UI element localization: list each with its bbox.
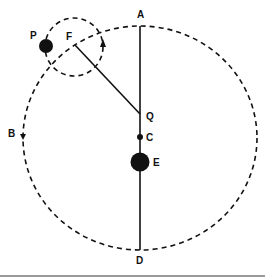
orbit-diagram: A B C D E F P Q	[0, 0, 265, 278]
label-E: E	[153, 157, 160, 168]
planet-P	[39, 39, 53, 53]
label-A: A	[137, 9, 144, 20]
label-F: F	[66, 31, 72, 42]
arrow-up-icon	[100, 39, 106, 47]
small-epicycle	[45, 18, 103, 76]
label-C: C	[146, 132, 153, 143]
point-C	[137, 134, 143, 140]
label-D: D	[136, 255, 143, 266]
earth-E	[131, 153, 150, 172]
line-FQ	[75, 45, 140, 114]
label-P: P	[30, 30, 37, 41]
arrow-down-icon	[20, 134, 26, 140]
label-Q: Q	[146, 111, 154, 122]
label-B: B	[8, 128, 15, 139]
